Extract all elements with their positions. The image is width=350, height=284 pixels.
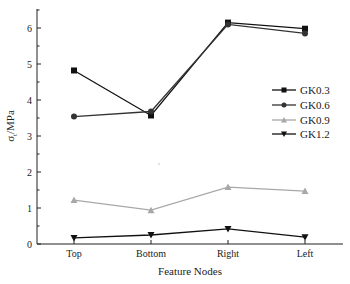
x-tick-label-left: Left [297, 248, 314, 259]
legend-label: GK0.9 [300, 114, 330, 126]
series-gk0-9 [71, 184, 309, 214]
legend-item-gk0-3: GK0.3 [272, 84, 330, 96]
legend-label: GK0.6 [300, 99, 330, 111]
y-tick-label: 6 [27, 23, 32, 34]
circle-marker [225, 21, 231, 27]
y-tick-label: 2 [27, 167, 32, 178]
series-line [74, 24, 305, 116]
legend-label: GK0.3 [300, 84, 330, 96]
circle-marker [71, 114, 77, 120]
y-tick-label: 5 [27, 59, 32, 70]
y-tick-label: 0 [27, 239, 32, 250]
series-gk1-2 [71, 226, 309, 242]
circle-marker [302, 30, 308, 36]
square-marker [282, 88, 287, 93]
stray-dot [158, 163, 160, 165]
legend-item-gk1-2: GK1.2 [272, 128, 330, 140]
series-line [74, 229, 305, 238]
legend-item-gk0-9: GK0.9 [272, 114, 330, 126]
square-marker [71, 67, 77, 73]
series-layer [71, 20, 309, 242]
legend-item-gk0-6: GK0.6 [272, 99, 330, 111]
series-line [74, 23, 305, 116]
y-tick-label: 3 [27, 131, 32, 142]
y-tick-label: 1 [27, 203, 32, 214]
circle-marker [148, 109, 154, 115]
svg-text:σt/MPa: σt/MPa [4, 110, 19, 142]
x-axis-title: Feature Nodes [158, 265, 222, 277]
series-line [74, 187, 305, 210]
y-axis-title: σt/MPa [4, 110, 19, 142]
line-chart: 0123456TopBottomRightLeft GK0.3GK0.6GK0.… [0, 0, 350, 284]
legend-label: GK1.2 [300, 128, 330, 140]
series-gk0-3 [71, 20, 308, 119]
y-axis-title-unit: /MPa [4, 110, 16, 134]
y-tick-label: 4 [27, 95, 32, 106]
circle-marker [282, 103, 287, 108]
legend: GK0.3GK0.6GK0.9GK1.2 [272, 84, 330, 140]
x-tick-label-right: Right [217, 248, 239, 259]
x-tick-label-top: Top [66, 248, 81, 259]
x-tick-label-bottom: Bottom [136, 248, 166, 259]
